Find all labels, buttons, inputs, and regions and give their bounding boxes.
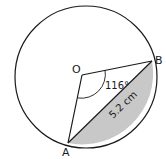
shaded-segment xyxy=(68,61,153,144)
point-label-A: A xyxy=(62,146,70,159)
angle-arc xyxy=(78,70,105,98)
angle-label: 116° xyxy=(105,80,129,91)
circle-diagram: O B A 116° 5.2 cm xyxy=(0,0,166,159)
point-label-B: B xyxy=(155,54,163,67)
point-label-O: O xyxy=(72,63,81,76)
